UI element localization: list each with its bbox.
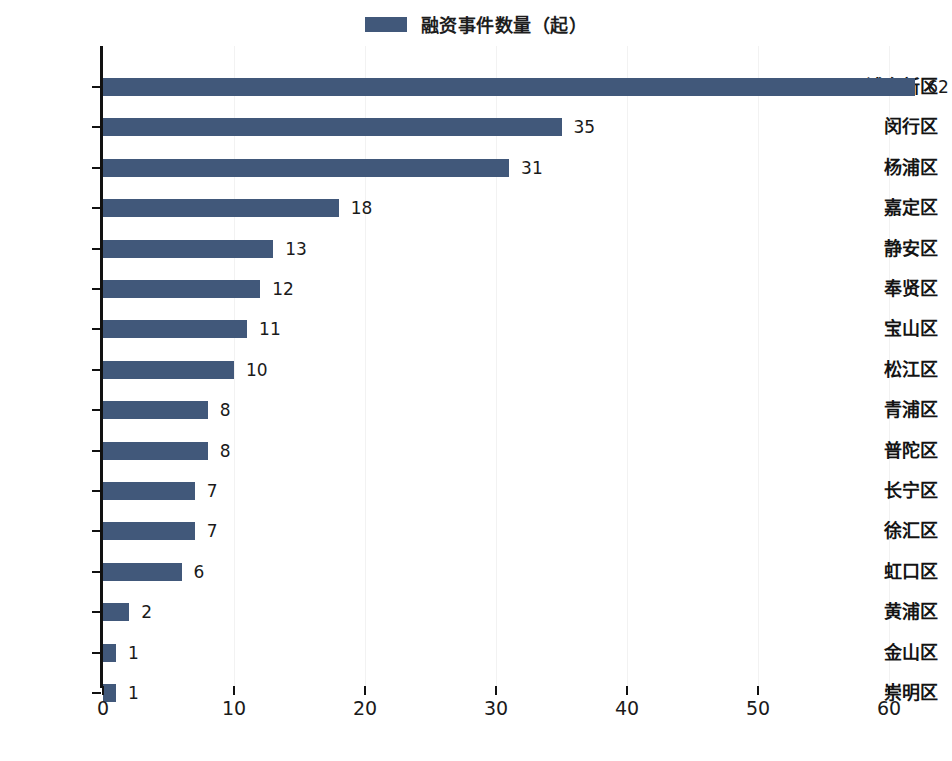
bar-row: 杨浦区31 [0, 159, 952, 177]
y-axis-tick-label-3: 嘉定区 [860, 199, 952, 217]
bar-长宁区[interactable] [103, 482, 195, 500]
x-axis-tick-mark-20 [364, 686, 366, 695]
bar-row: 徐汇区7 [0, 522, 952, 540]
bar-value-label-5: 12 [272, 281, 294, 298]
y-axis-tick-mark [92, 450, 101, 452]
y-axis-tick-label-14: 金山区 [860, 644, 952, 662]
bar-value-label-12: 6 [194, 563, 205, 580]
y-axis-tick-mark [92, 248, 101, 250]
x-axis-tick-label-40: 40 [615, 699, 639, 718]
y-axis-tick-mark [92, 611, 101, 613]
bar-松江区[interactable] [103, 361, 234, 379]
x-axis-tick-mark-40 [626, 686, 628, 695]
bar-value-label-1: 35 [574, 119, 596, 136]
y-axis-tick-label-6: 宝山区 [860, 320, 952, 338]
x-axis-tick-mark-10 [233, 686, 235, 695]
bar-徐汇区[interactable] [103, 522, 195, 540]
bar-青浦区[interactable] [103, 401, 208, 419]
bar-value-label-3: 18 [351, 200, 373, 217]
bar-value-label-4: 13 [285, 240, 307, 257]
bar-宝山区[interactable] [103, 320, 247, 338]
x-axis-tick-label-60: 60 [877, 699, 901, 718]
bar-value-label-6: 11 [259, 321, 281, 338]
x-axis-tick-mark-60 [888, 686, 890, 695]
legend-swatch-0 [365, 17, 407, 32]
bar-闵行区[interactable] [103, 118, 562, 136]
bar-value-label-13: 2 [141, 604, 152, 621]
y-axis-tick-label-8: 青浦区 [860, 401, 952, 419]
y-axis-tick-label-9: 普陀区 [860, 442, 952, 460]
bar-value-label-10: 7 [207, 483, 218, 500]
bar-普陀区[interactable] [103, 442, 208, 460]
y-axis-tick-label-11: 徐汇区 [860, 522, 952, 540]
bar-row: 闵行区35 [0, 118, 952, 136]
bar-row: 虹口区6 [0, 563, 952, 581]
x-axis-tick-mark-0 [102, 686, 104, 695]
y-axis-tick-label-1: 闵行区 [860, 118, 952, 136]
x-axis-tick-label-30: 30 [484, 699, 508, 718]
y-axis-tick-label-4: 静安区 [860, 240, 952, 258]
y-axis-tick-mark [92, 369, 101, 371]
y-axis-tick-mark [92, 328, 101, 330]
bar-value-label-7: 10 [246, 361, 268, 378]
bar-row: 宝山区11 [0, 320, 952, 338]
x-axis-tick-mark-50 [757, 686, 759, 695]
bar-row: 浦东新区62 [0, 78, 952, 96]
y-axis-tick-label-7: 松江区 [860, 361, 952, 379]
chart-legend: 融资事件数量（起） [0, 8, 952, 40]
bar-虹口区[interactable] [103, 563, 182, 581]
x-axis-tick-mark-30 [495, 686, 497, 695]
bar-黄浦区[interactable] [103, 603, 129, 621]
y-axis-tick-mark [92, 288, 101, 290]
y-axis-tick-label-5: 奉贤区 [860, 280, 952, 298]
y-axis-tick-mark [92, 409, 101, 411]
y-axis-tick-label-12: 虹口区 [860, 563, 952, 581]
bar-row: 静安区13 [0, 240, 952, 258]
y-axis-tick-mark [92, 530, 101, 532]
x-axis-tick-label-20: 20 [353, 699, 377, 718]
bar-value-label-9: 8 [220, 442, 231, 459]
bar-chart: 融资事件数量（起） 浦东新区62闵行区35杨浦区31嘉定区18静安区13奉贤区1… [0, 0, 952, 761]
bar-row: 青浦区8 [0, 401, 952, 419]
bar-row: 奉贤区12 [0, 280, 952, 298]
y-axis-tick-mark [92, 167, 101, 169]
x-axis-tick-label-10: 10 [222, 699, 246, 718]
bar-静安区[interactable] [103, 240, 273, 258]
bar-value-label-8: 8 [220, 402, 231, 419]
y-axis-tick-mark [92, 207, 101, 209]
y-axis-tick-label-2: 杨浦区 [860, 159, 952, 177]
y-axis-tick-label-10: 长宁区 [860, 482, 952, 500]
y-axis-tick-mark [92, 126, 101, 128]
bar-value-label-2: 31 [521, 159, 543, 176]
y-axis-tick-mark [92, 571, 101, 573]
y-axis-tick-mark [92, 490, 101, 492]
bar-row: 黄浦区2 [0, 603, 952, 621]
bar-浦东新区[interactable] [103, 78, 915, 96]
bar-value-label-0: 62 [927, 79, 949, 96]
legend-label-0: 融资事件数量（起） [421, 11, 588, 37]
bar-row: 长宁区7 [0, 482, 952, 500]
bar-row: 普陀区8 [0, 442, 952, 460]
bar-row: 嘉定区18 [0, 199, 952, 217]
bar-金山区[interactable] [103, 644, 116, 662]
y-axis-tick-mark [92, 86, 101, 88]
y-axis-tick-label-13: 黄浦区 [860, 603, 952, 621]
x-axis: 0102030405060 [0, 686, 952, 732]
bar-奉贤区[interactable] [103, 280, 260, 298]
bar-value-label-11: 7 [207, 523, 218, 540]
x-axis-tick-label-50: 50 [746, 699, 770, 718]
x-axis-tick-label-0: 0 [97, 699, 109, 718]
bar-value-label-14: 1 [128, 644, 139, 661]
plot-area: 浦东新区62闵行区35杨浦区31嘉定区18静安区13奉贤区12宝山区11松江区1… [0, 42, 952, 732]
bar-row: 松江区10 [0, 361, 952, 379]
y-axis-tick-mark [92, 652, 101, 654]
bar-row: 金山区1 [0, 644, 952, 662]
bar-嘉定区[interactable] [103, 199, 339, 217]
bar-杨浦区[interactable] [103, 159, 509, 177]
